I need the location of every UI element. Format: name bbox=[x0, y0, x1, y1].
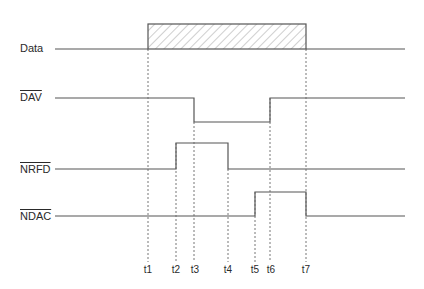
ndac-waveform bbox=[55, 192, 405, 216]
time-label-t3: t3 bbox=[191, 265, 199, 275]
signal-label-data: Data bbox=[20, 43, 43, 54]
time-label-t6: t6 bbox=[267, 265, 275, 275]
data-waveform bbox=[55, 24, 405, 49]
signal-label-nrfd: NRFD bbox=[20, 164, 51, 175]
signal-label-dav: DAV bbox=[20, 92, 42, 103]
handshake-timing-diagram bbox=[0, 0, 424, 289]
time-label-t2: t2 bbox=[172, 265, 180, 275]
time-label-t7: t7 bbox=[302, 265, 310, 275]
time-marker-lines bbox=[148, 49, 306, 262]
nrfd-waveform bbox=[55, 143, 405, 169]
dav-waveform bbox=[55, 98, 405, 122]
signal-label-ndac: NDAC bbox=[20, 211, 51, 222]
time-label-t5: t5 bbox=[251, 265, 259, 275]
time-label-t1: t1 bbox=[144, 265, 152, 275]
time-label-t4: t4 bbox=[224, 265, 232, 275]
